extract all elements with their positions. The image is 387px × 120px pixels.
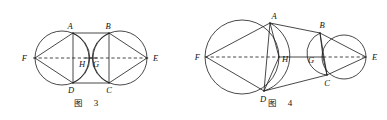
f3-label-F: F (21, 53, 28, 63)
f4-label-B: B (319, 20, 324, 30)
f4-label-F: F (194, 52, 201, 62)
f3-label-G: G (93, 59, 99, 69)
f4-label-A: A (270, 11, 277, 21)
f3-caption-number: 3 (94, 98, 99, 108)
f3-label-A: A (66, 21, 73, 31)
f4-segment-BG (320, 33, 323, 57)
f4-segment-FD (206, 57, 264, 91)
f4-segment-EB (320, 33, 366, 57)
f3-label-H: H (78, 59, 86, 69)
f3-segment-FD (35, 58, 73, 83)
figure-4-container: A B C D E F H G 图 4 (193, 0, 387, 120)
f3-label-D: D (67, 85, 75, 95)
f3-label-B: B (105, 21, 110, 31)
f3-label-E: E (152, 53, 159, 63)
figure-3-container: A B C D E F H G 图 3 (0, 0, 193, 120)
f4-label-G: G (308, 55, 314, 65)
f4-segment-FA (206, 23, 270, 57)
f4-segment-DC (264, 75, 327, 91)
f3-segment-EB (109, 33, 147, 58)
f3-segment-EC (109, 58, 147, 83)
f3-caption-cjk: 图 (74, 98, 83, 108)
f4-caption-cjk: 图 (268, 98, 277, 108)
f3-label-C: C (106, 85, 112, 95)
f4-label-C: C (324, 78, 330, 88)
figure-4-drawing: A B C D E F H G 图 4 (193, 0, 387, 120)
f4-label-E: E (371, 52, 378, 62)
figure-sheet: A B C D E F H G 图 3 (0, 0, 387, 120)
f3-segment-FA (35, 33, 73, 58)
f4-caption-number: 4 (288, 98, 293, 108)
f4-label-D: D (259, 94, 267, 104)
figure-3-drawing: A B C D E F H G 图 3 (0, 0, 193, 120)
f4-arc-B-G-C (307, 33, 327, 75)
f4-label-H: H (281, 54, 289, 64)
